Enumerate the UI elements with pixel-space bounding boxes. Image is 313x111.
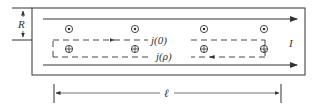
radius-dimension: R — [12, 8, 32, 40]
out-of-page-icon — [260, 25, 267, 32]
out-of-page-row — [65, 25, 267, 32]
radius-label: R — [17, 18, 25, 30]
solenoid-diagram: R I j(0) j(ρ) ℓ — [0, 0, 313, 111]
loop-top-label: j(0) — [149, 34, 167, 47]
current-label: I — [288, 37, 294, 49]
into-page-icon — [200, 45, 207, 52]
into-page-icon — [131, 45, 138, 52]
out-of-page-icon — [200, 25, 207, 32]
length-dimension: ℓ — [54, 84, 281, 103]
out-of-page-icon — [131, 25, 138, 32]
loop-bottom-label: j(ρ) — [154, 50, 172, 63]
out-of-page-icon — [65, 25, 72, 32]
length-label: ℓ — [164, 87, 169, 99]
into-page-icon — [65, 45, 72, 52]
into-page-icon — [260, 45, 267, 52]
